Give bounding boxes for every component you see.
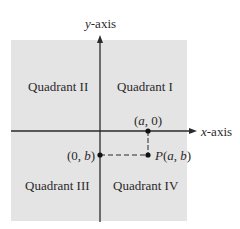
quadrant-iii-label: Quadrant III xyxy=(25,179,90,192)
y-axis-arrow-icon xyxy=(97,35,103,43)
point-p-dot xyxy=(145,152,150,157)
quadrant-i-label: Quadrant I xyxy=(117,80,173,93)
point-0-b-label: (0, b) xyxy=(67,149,95,162)
point-p-label: P(a, b) xyxy=(155,149,191,162)
point-0-b-dot xyxy=(97,152,102,157)
quadrant-iv-label: Quadrant IV xyxy=(113,179,178,192)
quadrant-ii-label: Quadrant II xyxy=(28,80,88,93)
x-axis-arrow-icon xyxy=(189,128,197,134)
x-axis-label: x-axis xyxy=(201,125,232,138)
point-a-0-label: (a, 0) xyxy=(134,114,162,127)
point-a-0-dot xyxy=(145,128,150,133)
coordinate-plane-diagram: y-axis x-axis Quadrant II Quadrant I Qua… xyxy=(0,0,240,229)
plane-graphics xyxy=(0,0,240,229)
y-axis-label: y-axis xyxy=(85,17,116,30)
